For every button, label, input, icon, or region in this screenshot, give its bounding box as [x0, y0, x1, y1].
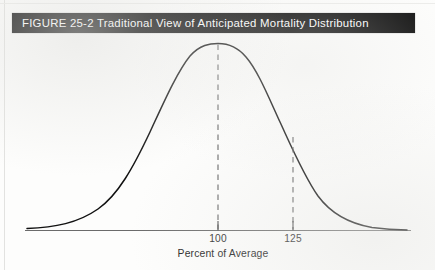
x-axis-title: Percent of Average — [133, 248, 313, 259]
figure-container: FIGURE 25-2 Traditional View of Anticipa… — [0, 0, 435, 270]
x-tick-label-100: 100 — [198, 233, 238, 244]
bell-curve-path — [27, 44, 407, 230]
x-tick-label-125: 125 — [273, 233, 313, 244]
distribution-plot — [0, 0, 435, 270]
